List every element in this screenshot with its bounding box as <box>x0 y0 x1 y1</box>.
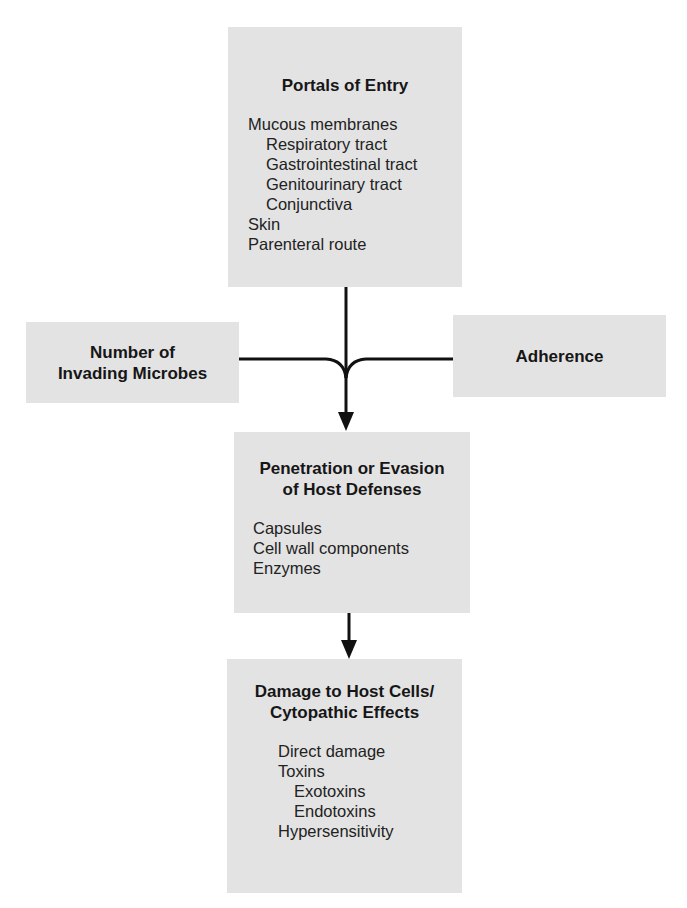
portals-of-entry-list: Mucous membranes Respiratory tract Gastr… <box>248 114 462 254</box>
title-line: of Host Defenses <box>234 479 470 500</box>
number-of-invading-microbes-box: Number of Invading Microbes <box>26 322 239 403</box>
connector-adherence-merge <box>346 359 453 378</box>
penetration-evasion-list: Capsules Cell wall components Enzymes <box>253 518 470 578</box>
list-item: Capsules <box>253 518 470 538</box>
arrowhead-down-icon <box>338 412 354 431</box>
list-item: Gastrointestinal tract <box>248 154 462 174</box>
title-line: Damage to Host Cells/ <box>227 681 462 702</box>
damage-host-cells-title: Damage to Host Cells/ Cytopathic Effects <box>227 681 462 723</box>
title-line: Invading Microbes <box>58 363 207 384</box>
damage-host-cells-box: Damage to Host Cells/ Cytopathic Effects… <box>227 659 462 893</box>
list-item: Enzymes <box>253 558 470 578</box>
list-item: Skin <box>248 214 462 234</box>
list-item: Respiratory tract <box>248 134 462 154</box>
arrowhead-down-icon <box>341 640 357 659</box>
list-item: Genitourinary tract <box>248 174 462 194</box>
adherence-box: Adherence <box>453 315 666 397</box>
connector-number-merge <box>239 359 346 378</box>
list-item: Mucous membranes <box>248 114 462 134</box>
portals-of-entry-box: Portals of Entry Mucous membranes Respir… <box>228 27 462 287</box>
damage-host-cells-list: Direct damage Toxins Exotoxins Endotoxin… <box>278 741 462 841</box>
number-of-invading-microbes-title: Number of Invading Microbes <box>58 342 207 384</box>
penetration-evasion-title: Penetration or Evasion of Host Defenses <box>234 458 470 500</box>
list-item: Hypersensitivity <box>278 821 462 841</box>
list-item: Endotoxins <box>278 801 462 821</box>
list-item: Toxins <box>278 761 462 781</box>
title-line: Cytopathic Effects <box>227 702 462 723</box>
list-item: Parenteral route <box>248 234 462 254</box>
title-line: Number of <box>58 342 207 363</box>
list-item: Conjunctiva <box>248 194 462 214</box>
adherence-title: Adherence <box>516 346 604 367</box>
list-item: Cell wall components <box>253 538 470 558</box>
list-item: Direct damage <box>278 741 462 761</box>
portals-of-entry-title: Portals of Entry <box>228 75 462 96</box>
title-line: Penetration or Evasion <box>234 458 470 479</box>
penetration-evasion-box: Penetration or Evasion of Host Defenses … <box>234 432 470 613</box>
list-item: Exotoxins <box>278 781 462 801</box>
